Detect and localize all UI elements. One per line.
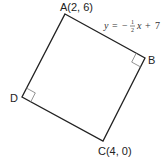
eq-var: x bbox=[136, 20, 142, 31]
vertex-label-b: B bbox=[148, 54, 155, 66]
vertex-label-d: D bbox=[10, 92, 18, 104]
line-equation: y = − 1 2 x + 7 bbox=[103, 19, 160, 33]
eq-frac-num: 1 bbox=[131, 19, 134, 25]
square-abcd bbox=[22, 14, 145, 141]
vertex-label-a: A(2, 6) bbox=[60, 1, 93, 13]
eq-equals: = bbox=[112, 20, 118, 31]
eq-plus: + bbox=[145, 20, 151, 31]
eq-frac-den: 2 bbox=[131, 27, 134, 33]
square-diagram: A(2, 6) B D C(4, 0) y = − 1 2 x + 7 bbox=[0, 0, 165, 166]
eq-const: 7 bbox=[155, 20, 160, 31]
eq-lhs: y bbox=[103, 20, 109, 31]
eq-sign: − bbox=[122, 20, 128, 31]
vertex-label-c: C(4, 0) bbox=[98, 145, 132, 157]
